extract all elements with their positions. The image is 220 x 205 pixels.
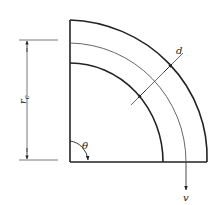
bend-frame	[70, 20, 207, 162]
pipe-bend-diagram: v d rc θ	[0, 0, 220, 205]
velocity-label: v	[183, 192, 189, 203]
radius-dimension: rc	[17, 40, 58, 160]
radius-label: rc	[17, 95, 31, 104]
width-arrow-inner	[138, 90, 146, 98]
width-label: d	[176, 45, 182, 56]
angle-label: θ	[82, 140, 88, 151]
width-arrow-outer	[164, 64, 172, 72]
radius-subscript: c	[23, 95, 31, 99]
outer-arc	[70, 20, 207, 162]
